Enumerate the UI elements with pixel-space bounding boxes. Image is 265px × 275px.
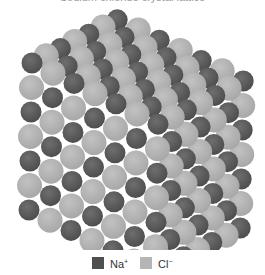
na-ion-sphere bbox=[146, 212, 167, 233]
na-ion-sphere bbox=[63, 122, 84, 143]
na-ion-sphere bbox=[19, 200, 40, 221]
na-ion-sphere bbox=[20, 151, 41, 172]
cl-ion-sphere bbox=[101, 214, 126, 239]
legend-label-cl: Cl− bbox=[158, 254, 172, 272]
na-ion-sphere bbox=[21, 102, 42, 123]
cl-ion-sphere bbox=[40, 110, 65, 135]
na-ion-sphere bbox=[62, 171, 83, 192]
cl-ion-sphere bbox=[82, 130, 107, 155]
cl-ion-sphere bbox=[83, 81, 108, 106]
ion-spheres bbox=[17, 9, 255, 250]
na-ion-sphere bbox=[126, 128, 147, 149]
cl-ion-sphere bbox=[145, 136, 170, 161]
na-ion-sphere bbox=[124, 226, 145, 247]
cl-ion-sphere bbox=[59, 193, 84, 218]
cl-ion-sphere bbox=[124, 151, 149, 176]
na-ion-sphere bbox=[106, 93, 127, 114]
cl-swatch-icon bbox=[140, 257, 152, 269]
cl-ion-sphere bbox=[144, 185, 169, 210]
cl-ion-sphere bbox=[125, 102, 150, 127]
cl-ion-sphere bbox=[18, 124, 43, 149]
na-ion-sphere bbox=[147, 163, 168, 184]
na-ion-sphere bbox=[105, 142, 126, 163]
cl-ion-sphere bbox=[39, 159, 64, 184]
cl-ion-sphere bbox=[61, 95, 86, 120]
cl-ion-sphere bbox=[17, 173, 42, 198]
na-ion-sphere bbox=[83, 157, 104, 178]
na-ion-sphere bbox=[82, 206, 103, 227]
na-ion-sphere bbox=[64, 73, 85, 94]
cl-ion-sphere bbox=[60, 144, 85, 169]
na-ion-sphere bbox=[61, 220, 82, 241]
cl-ion-sphere bbox=[38, 208, 63, 233]
na-ion-sphere bbox=[148, 114, 169, 135]
legend-label-na: Na+ bbox=[110, 254, 128, 272]
cl-ion-sphere bbox=[41, 61, 66, 86]
na-ion-sphere bbox=[41, 136, 62, 157]
cl-ion-sphere bbox=[103, 116, 128, 141]
na-ion-sphere bbox=[125, 177, 146, 198]
na-ion-sphere bbox=[84, 108, 105, 129]
na-swatch-icon bbox=[92, 257, 104, 269]
na-ion-sphere bbox=[40, 185, 61, 206]
cl-ion-sphere bbox=[102, 165, 127, 190]
na-ion-sphere bbox=[104, 191, 125, 212]
cl-ion-sphere bbox=[19, 75, 44, 100]
cl-ion-sphere bbox=[80, 228, 105, 250]
cl-ion-sphere bbox=[123, 200, 148, 225]
cl-ion-sphere bbox=[122, 249, 147, 251]
na-ion-sphere bbox=[103, 240, 124, 250]
na-ion-sphere bbox=[42, 87, 63, 108]
legend: Na+ Cl− bbox=[0, 255, 265, 271]
nacl-crystal-lattice bbox=[0, 0, 265, 250]
legend-item-na: Na+ bbox=[92, 255, 128, 271]
cl-ion-sphere bbox=[81, 179, 106, 204]
legend-item-cl: Cl− bbox=[140, 255, 172, 271]
na-ion-sphere bbox=[22, 53, 43, 74]
